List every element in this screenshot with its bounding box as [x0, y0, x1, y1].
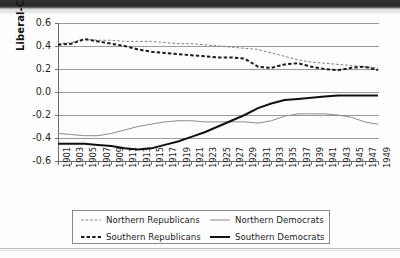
- legend-swatch-icon: [81, 216, 101, 224]
- x-axis-tick: [191, 161, 192, 165]
- y-axis-tick-label: 0.6: [17, 18, 51, 28]
- legend-item[interactable]: Southern Republicans: [73, 232, 202, 242]
- x-axis-tick: [138, 161, 139, 165]
- legend-item[interactable]: Southern Democrats: [202, 232, 331, 242]
- page-rule-upper: [0, 248, 400, 249]
- series-lines: [58, 23, 378, 161]
- y-axis-tick-label: 0.2: [17, 64, 51, 74]
- x-axis-tick: [125, 161, 126, 165]
- x-axis-tick: [311, 161, 312, 165]
- x-axis-tick: [378, 161, 379, 165]
- x-axis-tick: [338, 161, 339, 165]
- x-axis-tick: [285, 161, 286, 165]
- scan-artifact-gradient: [0, 9, 400, 14]
- legend-swatch-icon: [210, 233, 230, 241]
- page-rule-lower: [0, 250, 400, 251]
- x-axis-tick: [165, 161, 166, 165]
- legend-item[interactable]: Northern Republicans: [73, 215, 202, 225]
- y-axis-tick-label: -0.2: [17, 110, 51, 120]
- x-axis-tick: [151, 161, 152, 165]
- series-line: [58, 39, 378, 68]
- series-line: [58, 95, 378, 149]
- scan-artifact-band: [0, 0, 400, 9]
- legend-label: Northern Republicans: [106, 215, 200, 225]
- x-axis-tick: [98, 161, 99, 165]
- y-axis-tick-label: -0.4: [17, 133, 51, 143]
- x-axis-tick: [298, 161, 299, 165]
- series-line: [58, 114, 378, 136]
- x-axis-tick: [245, 161, 246, 165]
- y-axis-tick-label: 0.4: [17, 41, 51, 51]
- x-axis-tick: [111, 161, 112, 165]
- x-axis-tick-label: 1949: [382, 147, 392, 168]
- x-axis-tick: [178, 161, 179, 165]
- x-axis-tick: [365, 161, 366, 165]
- chart-page: Liberal-Conservative 0.60.40.20.0-0.2-0.…: [0, 0, 400, 258]
- x-axis-tick: [85, 161, 86, 165]
- x-axis-tick: [58, 161, 59, 165]
- legend-swatch-icon: [210, 216, 230, 224]
- legend-swatch-icon: [81, 233, 101, 241]
- legend-label: Southern Democrats: [235, 232, 325, 242]
- legend-label: Southern Republicans: [106, 232, 201, 242]
- x-axis-tick: [258, 161, 259, 165]
- x-axis-tick: [231, 161, 232, 165]
- y-axis-tick-label: -0.6: [17, 156, 51, 166]
- x-axis-tick: [351, 161, 352, 165]
- x-axis: 1901190319051907190919111913191519171919…: [58, 161, 378, 201]
- x-axis-tick: [271, 161, 272, 165]
- x-axis-tick: [71, 161, 72, 165]
- series-line: [58, 39, 378, 70]
- legend-label: Northern Democrats: [235, 215, 324, 225]
- legend: Northern RepublicansNorthern DemocratsSo…: [72, 210, 330, 244]
- x-axis-tick: [218, 161, 219, 165]
- legend-item[interactable]: Northern Democrats: [202, 215, 331, 225]
- y-axis-tick-label: 0.0: [17, 87, 51, 97]
- x-axis-tick: [325, 161, 326, 165]
- x-axis-tick: [205, 161, 206, 165]
